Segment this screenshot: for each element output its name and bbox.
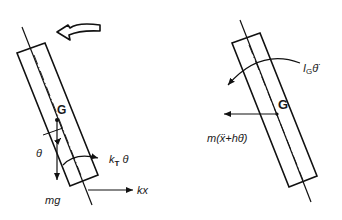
right-forces [224,59,300,116]
mg-label: mg [45,194,61,206]
diagram-canvas: G θ kT θ mg kx G IGθ̈ m(ẍ+hθ̈) [0,0,342,220]
kx-label: kx [137,184,149,196]
right-g-label: G [278,97,288,112]
left-g-label: G [57,103,66,117]
right-centerline [249,45,303,180]
angle-tick [43,128,63,135]
right-body [232,20,317,202]
inertia-force-label: m(ẍ+hθ̈) [207,132,248,144]
counter-clockwise-arrow [57,24,100,40]
theta-label: θ [36,147,42,159]
kt-theta-label: kT θ [109,153,128,168]
ig-theta-label: IGθ̈ [303,62,320,76]
